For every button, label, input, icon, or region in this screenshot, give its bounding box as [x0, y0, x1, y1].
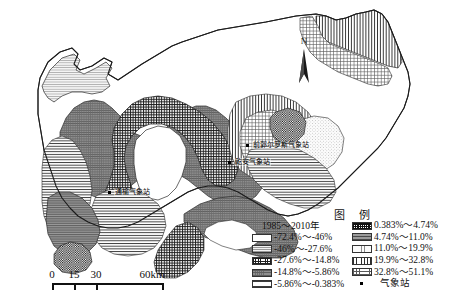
- legend-swatch-blank: [252, 234, 272, 242]
- legend-swatch-midgray: [352, 233, 372, 241]
- legend-column-right: 0.383%～4.74% 4.74%～11.0% 11.0%～19.9% 19.…: [352, 220, 448, 290]
- legend-item-label: 19.9%～32.8%: [374, 255, 433, 266]
- legend-item-label: 0.383%～4.74%: [374, 220, 438, 231]
- scale-tick-label: 60km: [139, 268, 164, 280]
- legend-swatch-vline: [352, 257, 372, 265]
- north-arrow: N: [292, 36, 316, 88]
- station-label: 通榆气象站: [114, 188, 151, 196]
- north-arrow-icon: [292, 47, 316, 87]
- legend-item-label: -46%～-27.6%: [274, 244, 332, 255]
- legend-column-left: 1985～2010年 -72.4%～-46% -46%～-27.6% -27.6…: [252, 220, 348, 290]
- legend-swatch-hdash: [252, 245, 272, 253]
- legend-item: 19.9%～32.8%: [352, 255, 448, 267]
- legend-columns: 1985～2010年 -72.4%～-46% -46%～-27.6% -27.6…: [252, 220, 448, 290]
- legend-period-header: 1985～2010年: [252, 220, 348, 232]
- scale-bar-ruler: [48, 283, 176, 292]
- station-dot-icon: [228, 161, 231, 164]
- scale-bar-tick: [96, 283, 98, 290]
- legend-item: 11.0%～19.9%: [352, 243, 448, 255]
- legend-item: -14.8%～-5.86%: [252, 267, 348, 279]
- legend-swatch-dot: [352, 245, 372, 253]
- legend-item: -5.86%～-0.383%: [252, 278, 348, 290]
- legend-item-label: 4.74%～11.0%: [374, 232, 433, 243]
- scale-tick-label: 15: [69, 268, 80, 280]
- legend-item-label: -5.86%～-0.383%: [274, 279, 344, 290]
- legend-swatch-graystipple: [252, 269, 272, 277]
- station-marker: 前郭尔罗斯气象站: [246, 141, 310, 149]
- legend-item-label: 气象站: [374, 278, 410, 289]
- station-dot-icon: [108, 191, 111, 194]
- scale-tick-label: 30: [91, 268, 102, 280]
- scale-tick-label: 0: [49, 268, 55, 280]
- legend-item: 4.74%～11.0%: [352, 232, 448, 244]
- legend-item-label: 11.0%～19.9%: [374, 243, 433, 254]
- scale-bar-labels: 0 15 30 60km: [48, 268, 176, 281]
- scale-bar: 0 15 30 60km: [48, 268, 176, 298]
- legend-item: -46%～-27.6%: [252, 244, 348, 256]
- legend-item: -72.4%～-46%: [252, 232, 348, 244]
- station-marker: 通榆气象站: [108, 188, 151, 196]
- north-arrow-label: N: [292, 36, 316, 46]
- station-label: 前郭尔罗斯气象站: [252, 141, 310, 149]
- legend-item: -27.6%～-14.8%: [252, 255, 348, 267]
- legend-item: 0.383%～4.74%: [352, 220, 448, 232]
- scale-bar-tick: [52, 283, 54, 290]
- thematic-map-figure: N 通榆气象站 前郭尔罗斯气象站 乾安气象站 0 15 30 60km: [0, 0, 450, 302]
- scale-bar-line: [52, 283, 164, 285]
- legend-item-label: -72.4%～-46%: [274, 232, 332, 243]
- legend-swatch-hline: [252, 280, 272, 288]
- legend-swatch-checker: [352, 222, 372, 230]
- legend-swatch-crossdense: [252, 257, 272, 265]
- legend-item-station: 气象站: [352, 278, 448, 290]
- station-marker: 乾安气象站: [228, 158, 271, 166]
- station-dot-icon: [352, 280, 372, 288]
- legend-item-label: -14.8%～-5.86%: [274, 267, 339, 278]
- scale-bar-tick: [74, 283, 76, 290]
- legend: 图 例 1985～2010年 -72.4%～-46% -46%～-27.6% -…: [252, 206, 448, 298]
- station-dot-icon: [246, 144, 249, 147]
- legend-item: 32.8%～51.1%: [352, 266, 448, 278]
- legend-item-label: -27.6%～-14.8%: [274, 255, 339, 266]
- scale-bar-tick: [162, 283, 164, 290]
- station-label: 乾安气象站: [234, 158, 271, 166]
- legend-swatch-finegrid: [352, 268, 372, 276]
- legend-item-label: 32.8%～51.1%: [374, 267, 433, 278]
